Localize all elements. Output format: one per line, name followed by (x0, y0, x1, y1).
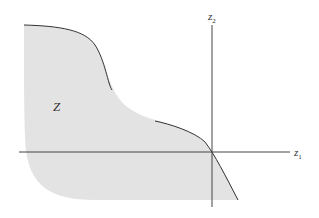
diagram-canvas: Z z1 z2 (0, 0, 319, 218)
z1-axis-label: z1 (293, 146, 302, 161)
z2-axis-label: z2 (207, 10, 216, 25)
region-label: Z (53, 99, 61, 114)
